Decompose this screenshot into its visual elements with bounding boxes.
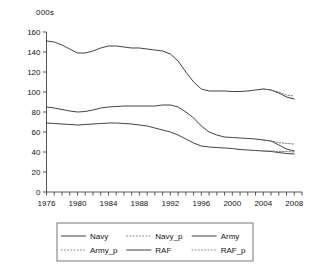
y-axis-tick-label: 140 (27, 48, 41, 57)
series-line-navy (47, 123, 295, 154)
x-axis-tick-label: 1988 (131, 199, 149, 208)
series-line-raf_p (263, 140, 294, 144)
legend-label-raf_p: RAF_p (221, 246, 246, 255)
y-axis-tick-label: 120 (27, 68, 41, 77)
x-axis-tick-label: 1984 (100, 199, 118, 208)
x-axis-tick-label: 1980 (69, 199, 87, 208)
legend-label-army_p: Army_p (90, 246, 118, 255)
legend-label-navy: Navy (90, 232, 108, 241)
y-axis-tick-label: 80 (32, 108, 41, 117)
x-axis-tick-label: 1992 (161, 199, 179, 208)
legend-box (57, 223, 253, 261)
series-line-raf (47, 105, 295, 151)
y-axis-tick-label: 40 (32, 148, 41, 157)
y-axis-tick-label: 20 (32, 168, 41, 177)
y-axis-tick-label: 100 (27, 88, 41, 97)
legend-label-navy_p: Navy_p (155, 232, 183, 241)
y-axis: 020406080100120140160 (27, 28, 46, 197)
x-axis: 197619801984198819921996200020042008 (38, 192, 304, 208)
y-axis-tick-label: 160 (27, 28, 41, 37)
series-line-army (47, 41, 295, 99)
y-axis-tick-label: 60 (32, 128, 41, 137)
legend-label-army: Army (221, 232, 240, 241)
x-axis-tick-label: 2008 (285, 199, 303, 208)
legend-label-raf: RAF (155, 246, 171, 255)
x-axis-tick-label: 2000 (223, 199, 241, 208)
x-axis-tick-label: 1996 (192, 199, 210, 208)
x-axis-tick-label: 2004 (254, 199, 272, 208)
series-line-army_p (263, 89, 294, 96)
chart-series-group (47, 41, 295, 154)
chart-container: 000s 020406080100120140160 1976198019841… (0, 0, 310, 276)
x-axis-tick-label: 1976 (38, 199, 56, 208)
y-axis-tick-label: 0 (36, 188, 41, 197)
line-chart: 020406080100120140160 197619801984198819… (0, 0, 310, 276)
chart-legend: NavyNavy_pArmyArmy_pRAFRAF_p (57, 223, 253, 261)
